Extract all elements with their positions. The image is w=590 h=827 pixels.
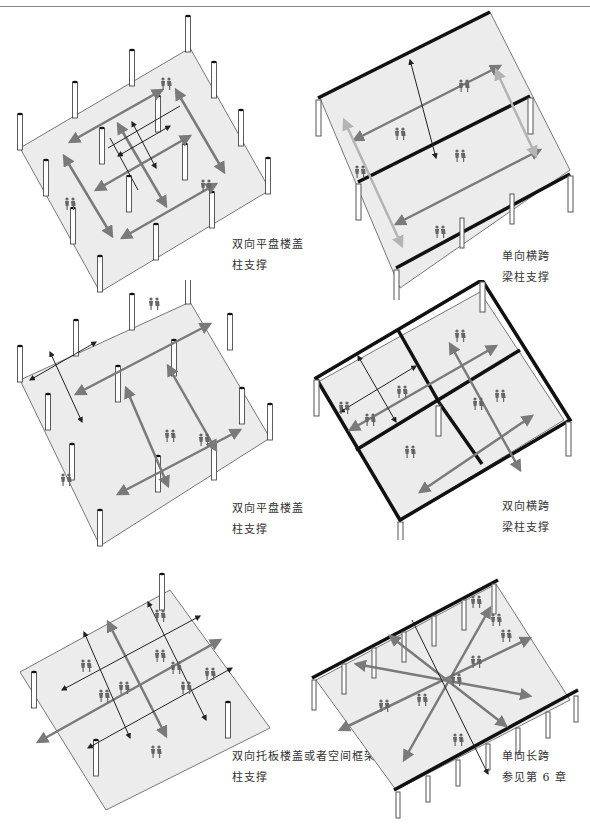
panel-label: 双向平盘楼盖 柱支撑 <box>232 498 304 540</box>
panel-label: 双向横跨 梁柱支撑 <box>502 496 550 538</box>
panel-label: 单向长跨 参见第 6 章 <box>502 746 567 788</box>
panel-label: 双向平盘楼盖 柱支撑 <box>232 234 304 276</box>
header-rule <box>0 6 590 7</box>
